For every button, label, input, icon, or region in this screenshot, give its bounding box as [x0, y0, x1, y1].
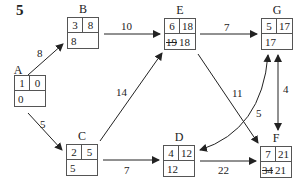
edge-label-d-g: 5 — [256, 107, 262, 119]
node-a-lft: 0 — [18, 93, 24, 105]
node-f-duration: 21 — [276, 147, 291, 161]
node-a-activity: 1 — [15, 76, 30, 90]
node-e-activity: 6 — [165, 19, 180, 33]
edge-c-e — [100, 53, 162, 141]
node-c-lft: 5 — [70, 162, 76, 174]
edge-label-d-f: 22 — [218, 164, 229, 176]
edge-label-e-f: 11 — [232, 87, 243, 99]
edge-label-c-d: 7 — [124, 164, 130, 176]
node-label-b: B — [67, 2, 99, 17]
node-b: 38 8 — [67, 17, 99, 49]
node-e: 618 1918 — [164, 18, 196, 50]
edge-d-g-curve — [200, 55, 268, 150]
node-label-d: D — [163, 130, 195, 145]
node-e-lft: 18 — [179, 36, 190, 48]
node-b-lft: 8 — [71, 35, 77, 47]
node-label-g: G — [261, 3, 293, 18]
node-b-duration: 8 — [83, 18, 98, 32]
edge-label-e-g: 7 — [224, 21, 230, 33]
edge-a-b — [28, 44, 63, 75]
node-d-duration: 12 — [179, 146, 194, 160]
node-e-lft-old: 19 — [166, 36, 177, 48]
node-d-activity: 4 — [164, 146, 179, 160]
node-f: 721 3421 — [260, 146, 292, 178]
node-f-activity: 7 — [261, 147, 276, 161]
node-f-lft-old: 34 — [262, 164, 273, 176]
edge-label-g-f: 4 — [283, 83, 289, 95]
edge-label-b-e: 10 — [121, 20, 132, 32]
node-g: 517 17 — [261, 18, 293, 50]
edge-label-a-b: 8 — [37, 47, 43, 59]
node-g-duration: 17 — [277, 19, 292, 33]
node-c-duration: 5 — [82, 145, 97, 159]
node-f-lft: 21 — [275, 164, 286, 176]
node-label-f: F — [260, 131, 292, 146]
node-c: 25 5 — [66, 144, 98, 176]
node-a-duration: 0 — [30, 76, 45, 90]
node-label-e: E — [164, 3, 196, 18]
edge-label-c-e: 14 — [116, 86, 127, 98]
node-label-c: C — [66, 129, 98, 144]
network-diagram: 5 8 5 10 14 7 7 11 22 5 4 A — [0, 0, 303, 191]
node-a: 10 0 — [14, 75, 46, 107]
node-c-activity: 2 — [67, 145, 82, 159]
node-d: 412 12 — [163, 145, 195, 177]
edge-e-f — [198, 54, 258, 143]
edge-label-a-c: 5 — [40, 118, 46, 130]
node-g-lft: 17 — [265, 36, 276, 48]
node-e-duration: 18 — [180, 19, 195, 33]
node-b-activity: 3 — [68, 18, 83, 32]
node-d-lft: 12 — [167, 163, 178, 175]
node-g-activity: 5 — [262, 19, 277, 33]
